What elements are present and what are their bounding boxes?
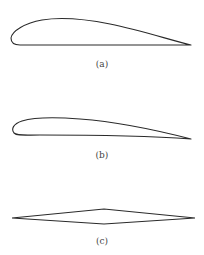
airfoil-a-shape bbox=[11, 19, 191, 45]
figure-label-c: (c) bbox=[0, 236, 204, 246]
airfoil-c-shape bbox=[12, 209, 195, 224]
figure-label-b: (b) bbox=[0, 150, 204, 160]
airfoil-diagram bbox=[0, 0, 204, 255]
airfoil-b-shape bbox=[13, 118, 191, 139]
figure-label-a: (a) bbox=[0, 59, 204, 69]
